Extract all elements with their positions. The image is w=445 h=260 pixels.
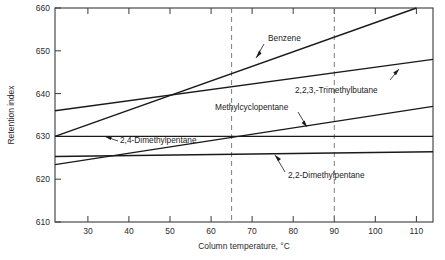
arrowhead-22-dimethylpentane [275, 155, 281, 161]
x-tick-label-60: 60 [206, 226, 216, 236]
series-label-benzene: Benzene [268, 33, 301, 43]
series-label-methylcyclopentane: Methylcyclopentane [215, 102, 289, 112]
arrowhead-trimethylbutane [393, 69, 399, 75]
x-axis-title: Column temperature, °C [198, 241, 290, 251]
y-tick-label-650: 650 [36, 46, 50, 56]
y-tick-label-640: 640 [36, 89, 50, 99]
y-tick-label-660: 660 [36, 3, 50, 13]
x-tick-label-110: 110 [410, 226, 424, 236]
arrowhead-24-dimethylpentane [105, 136, 112, 140]
y-tick-label-620: 620 [36, 174, 50, 184]
x-axis-ticks [88, 216, 417, 222]
y-tick-label-630: 630 [36, 131, 50, 141]
arrowhead-benzene [256, 50, 262, 58]
series-line-22-dimethylpentane [55, 152, 433, 157]
x-tick-label-80: 80 [288, 226, 298, 236]
retention-index-chart-figure: 660 650 640 630 620 610 [0, 0, 445, 260]
y-axis-title: Retention index [6, 85, 16, 145]
series-label-24-dimethylpentane: 2,4-Dimethylpentane [120, 135, 197, 145]
x-tick-label-30: 30 [83, 226, 93, 236]
series-label-22-dimethylpentane: 2,2-Dimethylpentane [288, 170, 365, 180]
x-tick-label-100: 100 [368, 226, 382, 236]
y-axis-tick-labels: 660 650 640 630 620 610 [36, 3, 50, 227]
series-label-trimethylbutane: 2,2,3,-Trimethylbutane [295, 85, 378, 95]
x-tick-label-50: 50 [165, 226, 175, 236]
chart-canvas: 660 650 640 630 620 610 [0, 0, 445, 260]
x-tick-label-90: 90 [330, 226, 340, 236]
x-tick-label-40: 40 [124, 226, 134, 236]
x-tick-label-70: 70 [247, 226, 257, 236]
x-axis-tick-labels: 30 40 50 60 70 80 90 100 110 [83, 226, 423, 236]
y-tick-label-610: 610 [36, 217, 50, 227]
x-axis-top-ticks [88, 8, 417, 14]
y-axis-ticks [55, 8, 61, 222]
